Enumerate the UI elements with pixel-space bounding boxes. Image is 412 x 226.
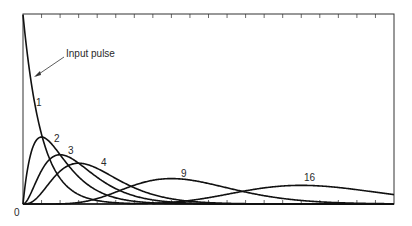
plot-frame [23,14,394,204]
arrowhead-icon [34,71,41,77]
curve-label-3: 3 [68,145,74,156]
curve-label-4: 4 [101,157,107,168]
curve-label-1: 1 [36,97,42,108]
input-pulse-label: Input pulse [66,48,115,59]
pulse-response-chart: Input pulse 0 1 2 3 4 9 16 [0,0,412,226]
curve-label-16: 16 [304,172,316,183]
origin-label: 0 [14,207,20,218]
curve-label-2: 2 [54,133,60,144]
curves [23,15,394,204]
curve-label-9: 9 [181,168,187,179]
curve-3 [23,155,394,204]
input-pulse-annotation: Input pulse [34,48,115,77]
axis-ticks [42,14,376,204]
curve-1 [23,15,394,204]
